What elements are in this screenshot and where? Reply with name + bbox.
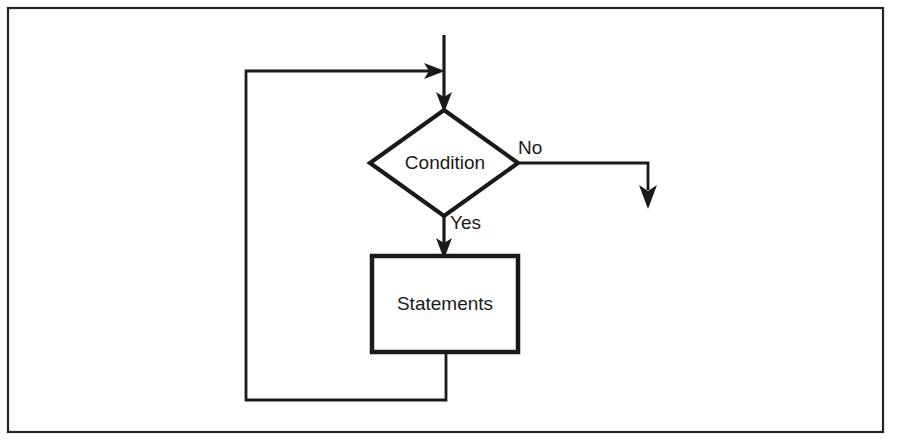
flowchart-diagram: Condition No Yes Statements xyxy=(0,0,901,444)
process-label: Statements xyxy=(397,293,493,314)
yes-branch-label: Yes xyxy=(450,212,481,233)
no-branch-label: No xyxy=(518,137,542,158)
decision-label: Condition xyxy=(405,152,485,173)
process-node: Statements xyxy=(372,256,518,352)
flowchart-canvas: Condition No Yes Statements xyxy=(0,0,901,444)
